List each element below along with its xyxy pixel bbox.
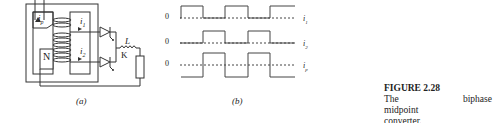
label-inductor: L <box>125 36 130 46</box>
label-ip: ip <box>38 13 44 25</box>
figure-caption: FIGURE 2.28 The biphase midpoint convert… <box>384 83 492 123</box>
trace-label-i2: i2 <box>303 39 308 50</box>
caption-line-1: The biphase midpoint <box>384 94 492 116</box>
panel-b-label: (b) <box>232 96 243 106</box>
waveform-plot <box>180 6 296 77</box>
panel-a-label: (a) <box>76 96 87 106</box>
trace-label-i1: i1 <box>303 14 308 25</box>
label-cathode: K <box>121 50 128 60</box>
label-i2: i2 <box>80 46 86 58</box>
label-neutral: N <box>43 51 50 62</box>
load-resistor <box>136 56 144 78</box>
zero-label-i1: 0 <box>165 12 169 21</box>
trace-label-ip: ip <box>303 61 308 72</box>
inductor-coil <box>120 46 136 48</box>
winding-coils <box>53 18 71 62</box>
zero-label-i2: 0 <box>165 37 169 46</box>
trace-i2 <box>180 31 295 43</box>
figure-number: FIGURE 2.28 <box>384 83 492 94</box>
label-i1: i1 <box>80 16 86 28</box>
caption-line-2: converter. <box>384 116 492 123</box>
trace-i1 <box>180 6 295 18</box>
zero-label-ip: 0 <box>165 59 169 68</box>
